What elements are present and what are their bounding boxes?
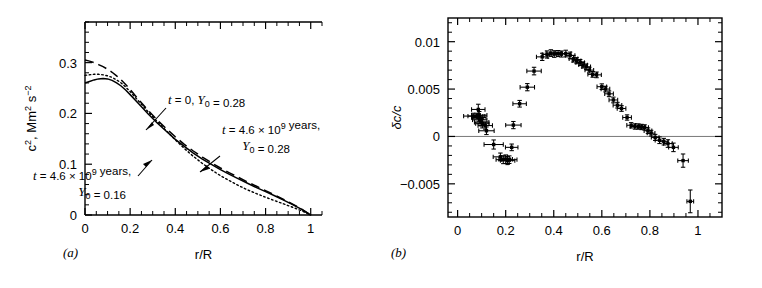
x-axis-title: r/R xyxy=(195,247,212,262)
marker xyxy=(595,73,598,76)
x-tick-label: 0.4 xyxy=(166,221,184,236)
y-axis-title: c2, Mm2 s−2 xyxy=(23,86,39,152)
panel-a-plot: 00.20.40.60.8100.10.20.3r/Rc2, Mm2 s−2t … xyxy=(0,0,381,288)
marker xyxy=(681,159,684,162)
x-tick-label: 0.8 xyxy=(257,221,275,236)
panel-a-content: 00.20.40.60.8100.10.20.3r/Rc2, Mm2 s−2t … xyxy=(23,22,322,262)
data-point xyxy=(669,143,679,152)
panel-letter-a: (a) xyxy=(63,245,78,260)
panel-a: 00.20.40.60.8100.10.20.3r/Rc2, Mm2 s−2t … xyxy=(0,0,381,288)
data-point xyxy=(520,84,534,91)
marker xyxy=(492,143,495,146)
marker xyxy=(607,92,610,95)
data-point xyxy=(506,121,521,128)
marker xyxy=(526,85,529,88)
marker xyxy=(477,108,480,111)
marker xyxy=(672,146,675,149)
annotation-line: t = 0, Y0 = 0.28 xyxy=(168,92,245,109)
y-tick-label: 0.005 xyxy=(407,82,440,97)
y-axis-title: δc/c xyxy=(389,105,404,129)
marker xyxy=(518,102,521,105)
x-tick-label: 0.2 xyxy=(121,221,139,236)
x-tick-label: 0 xyxy=(81,221,88,236)
x-tick-label: 1 xyxy=(307,221,314,236)
y-tick-label: 0.3 xyxy=(59,56,77,71)
figure-root: 00.20.40.60.8100.10.20.3r/Rc2, Mm2 s−2t … xyxy=(0,0,762,288)
y-tick-label: 0 xyxy=(70,208,77,223)
marker xyxy=(625,116,628,119)
data-point xyxy=(678,154,689,167)
x-tick-label: 1 xyxy=(694,223,701,238)
data-point xyxy=(505,144,517,151)
marker xyxy=(689,200,692,203)
data-point xyxy=(623,115,632,120)
y-tick-label: 0 xyxy=(433,129,440,144)
marker xyxy=(666,142,669,145)
marker xyxy=(604,87,607,90)
x-tick-label: 0.4 xyxy=(545,223,563,238)
panel-letter-b: (b) xyxy=(391,245,406,260)
plot-frame xyxy=(448,18,722,217)
x-tick-label: 0.6 xyxy=(593,223,611,238)
x-tick-label: 0.8 xyxy=(641,223,659,238)
marker xyxy=(485,129,488,132)
y-tick-label: 0.01 xyxy=(415,35,440,50)
panel-b: 00.20.40.60.81−0.00500.0050.01r/Rδc/c(b) xyxy=(381,0,762,288)
data-point xyxy=(527,67,541,75)
data-point xyxy=(484,140,503,149)
x-tick-label: 0.6 xyxy=(211,221,229,236)
data-point xyxy=(513,100,526,107)
annotation-line: t = 4.6 × 109 years, xyxy=(222,119,320,137)
marker xyxy=(508,158,511,161)
annotation-line: Y0 = 0.28 xyxy=(242,138,290,155)
x-tick-label: 0.2 xyxy=(497,223,515,238)
panel-b-content: 00.20.40.60.81−0.00500.0050.01r/Rδc/c(b) xyxy=(389,18,722,264)
x-tick-label: 0 xyxy=(454,223,461,238)
annotation-line: t = 4.6 × 109 years, xyxy=(33,165,131,183)
data-points xyxy=(464,50,694,213)
marker xyxy=(532,69,535,72)
panel-b-plot: 00.20.40.60.81−0.00500.0050.01r/Rδc/c(b) xyxy=(381,0,762,288)
marker xyxy=(612,98,615,101)
data-point xyxy=(687,190,694,213)
marker xyxy=(620,107,623,110)
annotation-line: Y0 = 0.16 xyxy=(78,184,126,201)
marker xyxy=(512,123,515,126)
x-axis-title: r/R xyxy=(576,249,593,264)
y-tick-label: 0.2 xyxy=(59,106,77,121)
y-tick-label: −0.005 xyxy=(400,177,440,192)
marker xyxy=(649,131,652,134)
marker xyxy=(510,146,513,149)
